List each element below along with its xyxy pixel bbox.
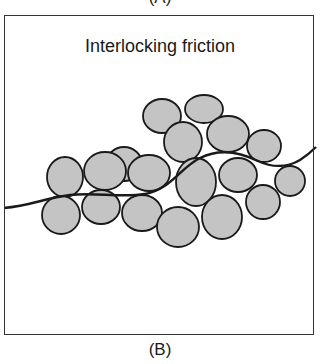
diagram-panel: Interlocking friction: [4, 15, 314, 335]
panel-title: Interlocking friction: [5, 36, 315, 57]
figure-caption: (B): [0, 340, 320, 360]
